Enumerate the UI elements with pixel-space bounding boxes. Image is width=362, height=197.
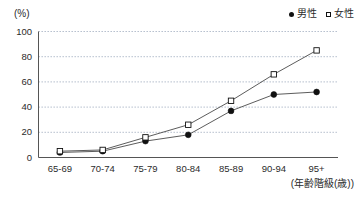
data-point-female[interactable] xyxy=(143,135,148,140)
data-point-female[interactable] xyxy=(186,122,191,127)
data-series xyxy=(57,48,320,156)
data-point-female[interactable] xyxy=(228,98,233,103)
x-tick-label: 95+ xyxy=(309,164,325,174)
axis-lines xyxy=(39,32,339,158)
y-tick-label: 100 xyxy=(2,27,32,37)
x-tick-label: 70-74 xyxy=(91,164,115,174)
data-point-female[interactable] xyxy=(57,149,62,154)
y-tick-label: 60 xyxy=(2,77,32,87)
data-point-male[interactable] xyxy=(228,108,234,114)
data-point-male[interactable] xyxy=(185,132,191,138)
chart-container: (%) 男性 女性 020406080100 65-6970-7475-7980… xyxy=(0,0,362,197)
data-point-female[interactable] xyxy=(271,72,276,77)
x-tick-label: 75-79 xyxy=(133,164,157,174)
y-tick-label: 40 xyxy=(2,102,32,112)
x-tick-label: 80-84 xyxy=(176,164,200,174)
data-point-male[interactable] xyxy=(271,92,277,98)
data-point-female[interactable] xyxy=(100,147,105,152)
gridlines xyxy=(39,32,339,133)
x-axis-title: (年齢階級(歳)) xyxy=(291,178,354,190)
y-tick-label: 80 xyxy=(2,52,32,62)
data-point-female[interactable] xyxy=(314,48,319,53)
x-tick-label: 65-69 xyxy=(48,164,72,174)
x-tick-label: 90-94 xyxy=(262,164,286,174)
data-point-male[interactable] xyxy=(314,89,320,95)
y-tick-label: 0 xyxy=(2,153,32,163)
y-tick-label: 20 xyxy=(2,127,32,137)
x-tick-label: 85-89 xyxy=(219,164,243,174)
